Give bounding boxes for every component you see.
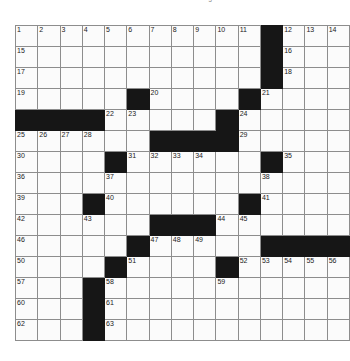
grid-cell[interactable]	[283, 131, 305, 152]
grid-cell[interactable]	[216, 299, 238, 320]
grid-cell[interactable]	[127, 215, 149, 236]
grid-cell-numbered[interactable]: 57	[16, 278, 38, 299]
grid-cell[interactable]	[171, 47, 193, 68]
grid-cell[interactable]	[171, 68, 193, 89]
grid-cell-numbered[interactable]: 35	[283, 152, 305, 173]
grid-cell[interactable]	[38, 278, 60, 299]
grid-cell[interactable]	[327, 47, 349, 68]
grid-cell[interactable]	[194, 194, 216, 215]
grid-cell-numbered[interactable]: 22	[105, 110, 127, 131]
grid-cell-numbered[interactable]: 17	[16, 68, 38, 89]
grid-cell-numbered[interactable]: 52	[238, 257, 260, 278]
grid-cell-numbered[interactable]: 25	[16, 131, 38, 152]
grid-cell-numbered[interactable]: 4	[82, 26, 104, 47]
grid-cell[interactable]	[105, 236, 127, 257]
grid-cell[interactable]	[305, 47, 327, 68]
grid-cell[interactable]	[105, 215, 127, 236]
grid-cell-numbered[interactable]: 10	[216, 26, 238, 47]
grid-cell[interactable]	[60, 194, 82, 215]
grid-cell-numbered[interactable]: 26	[38, 131, 60, 152]
grid-cell[interactable]	[82, 152, 104, 173]
grid-cell[interactable]	[194, 320, 216, 341]
grid-cell[interactable]	[60, 173, 82, 194]
grid-cell-numbered[interactable]: 54	[283, 257, 305, 278]
grid-cell[interactable]	[171, 257, 193, 278]
grid-cell[interactable]	[238, 278, 260, 299]
grid-cell[interactable]	[38, 320, 60, 341]
grid-cell[interactable]	[283, 110, 305, 131]
grid-cell[interactable]	[283, 194, 305, 215]
grid-cell[interactable]	[260, 110, 282, 131]
grid-cell-numbered[interactable]: 24	[238, 110, 260, 131]
grid-cell-numbered[interactable]: 37	[105, 173, 127, 194]
grid-cell-numbered[interactable]: 8	[171, 26, 193, 47]
grid-cell[interactable]	[194, 47, 216, 68]
grid-cell[interactable]	[171, 194, 193, 215]
grid-cell[interactable]	[216, 89, 238, 110]
grid-cell[interactable]	[238, 47, 260, 68]
grid-cell-numbered[interactable]: 38	[260, 173, 282, 194]
grid-cell-numbered[interactable]: 55	[305, 257, 327, 278]
grid-cell-numbered[interactable]: 56	[327, 257, 349, 278]
grid-cell[interactable]	[60, 257, 82, 278]
grid-cell[interactable]	[238, 236, 260, 257]
grid-cell[interactable]	[38, 299, 60, 320]
grid-cell-numbered[interactable]: 29	[238, 131, 260, 152]
grid-cell-numbered[interactable]: 59	[216, 278, 238, 299]
grid-cell-numbered[interactable]: 45	[238, 215, 260, 236]
grid-cell[interactable]	[82, 236, 104, 257]
grid-cell[interactable]	[305, 215, 327, 236]
grid-cell[interactable]	[216, 173, 238, 194]
grid-cell[interactable]	[60, 320, 82, 341]
grid-cell[interactable]	[149, 320, 171, 341]
grid-cell[interactable]	[105, 47, 127, 68]
grid-cell[interactable]	[216, 47, 238, 68]
grid-cell[interactable]	[60, 89, 82, 110]
grid-cell-numbered[interactable]: 44	[216, 215, 238, 236]
grid-cell-numbered[interactable]: 21	[260, 89, 282, 110]
grid-cell[interactable]	[171, 299, 193, 320]
grid-cell[interactable]	[60, 47, 82, 68]
grid-cell-numbered[interactable]: 7	[149, 26, 171, 47]
grid-cell[interactable]	[38, 194, 60, 215]
grid-cell[interactable]	[260, 215, 282, 236]
grid-cell[interactable]	[171, 278, 193, 299]
grid-cell-numbered[interactable]: 28	[82, 131, 104, 152]
grid-cell[interactable]	[194, 68, 216, 89]
grid-cell[interactable]	[149, 68, 171, 89]
grid-cell[interactable]	[305, 89, 327, 110]
grid-cell[interactable]	[38, 152, 60, 173]
grid-cell[interactable]	[216, 68, 238, 89]
grid-cell-numbered[interactable]: 6	[127, 26, 149, 47]
grid-cell[interactable]	[171, 89, 193, 110]
grid-cell[interactable]	[38, 257, 60, 278]
grid-cell-numbered[interactable]: 33	[171, 152, 193, 173]
grid-cell[interactable]	[127, 278, 149, 299]
grid-cell[interactable]	[238, 299, 260, 320]
grid-cell[interactable]	[127, 131, 149, 152]
grid-cell[interactable]	[216, 194, 238, 215]
grid-cell[interactable]	[327, 215, 349, 236]
grid-cell[interactable]	[283, 89, 305, 110]
grid-cell-numbered[interactable]: 20	[149, 89, 171, 110]
grid-cell[interactable]	[216, 320, 238, 341]
grid-cell[interactable]	[127, 68, 149, 89]
grid-cell[interactable]	[327, 131, 349, 152]
grid-cell[interactable]	[82, 47, 104, 68]
grid-cell-numbered[interactable]: 61	[105, 299, 127, 320]
grid-cell[interactable]	[305, 173, 327, 194]
grid-cell-numbered[interactable]: 3	[60, 26, 82, 47]
grid-cell[interactable]	[283, 173, 305, 194]
grid-cell[interactable]	[305, 131, 327, 152]
grid-cell[interactable]	[38, 68, 60, 89]
grid-cell-numbered[interactable]: 43	[82, 215, 104, 236]
grid-cell[interactable]	[260, 131, 282, 152]
grid-cell-numbered[interactable]: 42	[16, 215, 38, 236]
grid-cell-numbered[interactable]: 46	[16, 236, 38, 257]
grid-cell[interactable]	[60, 68, 82, 89]
grid-cell-numbered[interactable]: 1	[16, 26, 38, 47]
grid-cell[interactable]	[283, 278, 305, 299]
grid-cell-numbered[interactable]: 47	[149, 236, 171, 257]
grid-cell[interactable]	[305, 194, 327, 215]
grid-cell-numbered[interactable]: 23	[127, 110, 149, 131]
